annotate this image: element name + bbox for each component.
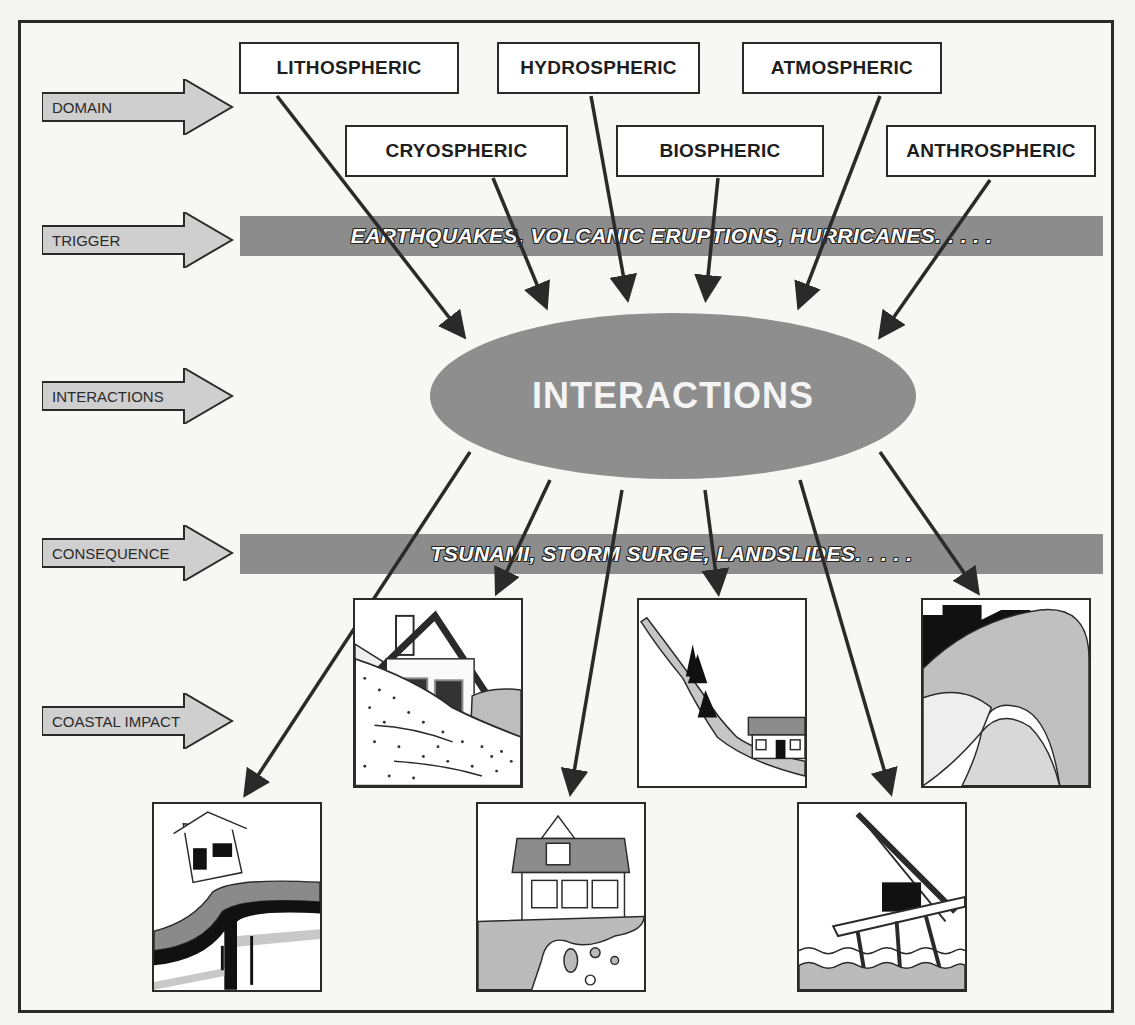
panel-cliff-erosion-house [476, 802, 646, 992]
row-arrow-coastal-impact: COASTAL IMPACT [42, 693, 238, 749]
offshore-platform-illustration [799, 804, 965, 990]
domain-atmospheric: ATMOSPHERIC [742, 42, 942, 94]
interactions-label: INTERACTIONS [532, 375, 814, 417]
landslide-illustration [639, 600, 805, 786]
panel-tsunami-wave [921, 598, 1091, 788]
row-arrow-consequence: CONSEQUENCE [42, 525, 238, 581]
consequence-band: TSUNAMI, STORM SURGE, LANDSLIDES. . . . … [240, 534, 1103, 574]
panel-earthquake-fault [152, 802, 322, 992]
tsunami-wave-illustration [923, 600, 1089, 786]
row-arrow-interactions: INTERACTIONS [42, 368, 238, 424]
row-label-coastal-impact: COASTAL IMPACT [52, 693, 180, 749]
panel-house-on-sliding-slope [353, 598, 523, 788]
row-label-trigger: TRIGGER [52, 212, 120, 268]
earthquake-fault-illustration [154, 804, 320, 990]
interactions-ellipse: INTERACTIONS [430, 313, 916, 479]
row-label-interactions: INTERACTIONS [52, 368, 164, 424]
row-label-consequence: CONSEQUENCE [52, 525, 170, 581]
row-arrow-trigger: TRIGGER [42, 212, 238, 268]
domain-hydrospheric: HYDROSPHERIC [497, 42, 700, 94]
row-label-domain: DOMAIN [52, 79, 112, 135]
trigger-band: EARTHQUAKES, VOLCANIC ERUPTIONS, HURRICA… [240, 216, 1103, 256]
domain-lithospheric: LITHOSPHERIC [239, 42, 459, 94]
consequence-band-text: TSUNAMI, STORM SURGE, LANDSLIDES. . . . … [430, 542, 912, 566]
sliding-house-illustration [355, 600, 521, 786]
panel-landslide-with-trees [637, 598, 807, 788]
domain-anthrospheric: ANTHROSPHERIC [886, 125, 1096, 177]
trigger-band-text: EARTHQUAKES, VOLCANIC ERUPTIONS, HURRICA… [351, 224, 993, 248]
domain-cryospheric: CRYOSPHERIC [345, 125, 568, 177]
panel-offshore-platform [797, 802, 967, 992]
row-arrow-domain: DOMAIN [42, 79, 238, 135]
cliff-erosion-illustration [478, 804, 644, 990]
domain-biospheric: BIOSPHERIC [616, 125, 824, 177]
